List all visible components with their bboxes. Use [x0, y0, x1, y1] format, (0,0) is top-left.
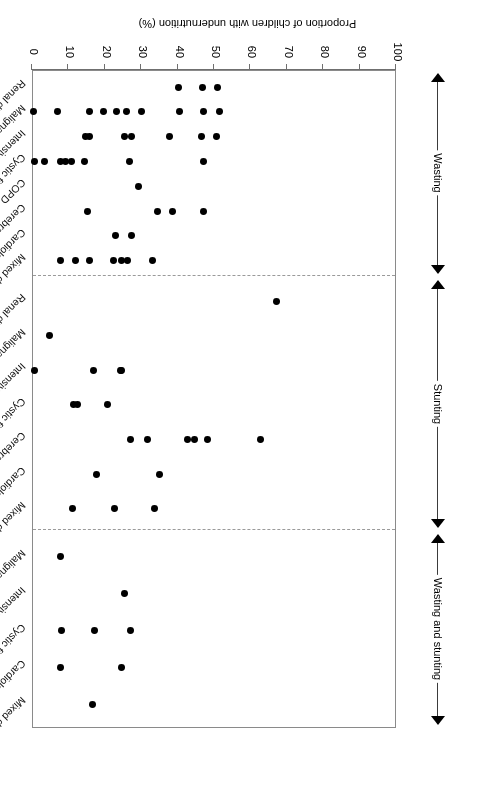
data-point	[175, 84, 182, 91]
data-point	[72, 257, 79, 264]
data-point	[54, 108, 61, 115]
group-separator-2	[33, 275, 395, 276]
data-point	[138, 108, 145, 115]
data-point	[200, 108, 207, 115]
group-label: Wasting	[432, 151, 444, 196]
data-point	[100, 108, 107, 115]
value-axis: 1009080706050403020100	[32, 69, 396, 70]
group-bracket: Wasting	[427, 74, 449, 273]
category-label: Cardiology	[0, 465, 28, 509]
data-point	[216, 108, 223, 115]
axis-tick-label: 90	[356, 32, 368, 72]
data-point	[127, 436, 134, 443]
data-point	[46, 332, 53, 339]
data-point	[69, 505, 76, 512]
data-point	[128, 133, 135, 140]
group-label: Wasting and stunting	[432, 575, 444, 683]
axis-tick-label: 30	[137, 32, 149, 72]
data-point	[119, 664, 126, 671]
axis-tick-label: 20	[101, 32, 113, 72]
data-point	[84, 208, 91, 215]
group-arrow-up-icon	[431, 519, 445, 528]
data-point	[213, 133, 220, 140]
axis-tick-label: 100	[392, 32, 404, 72]
axis-title: Proportion of children with undernutriti…	[0, 18, 495, 30]
group-arrow-up-icon	[431, 265, 445, 274]
group-arrow-down-icon	[431, 534, 445, 543]
group-separator-1	[33, 529, 395, 530]
data-point	[166, 133, 173, 140]
data-point	[127, 627, 134, 634]
data-point	[149, 257, 156, 264]
data-point	[117, 367, 124, 374]
data-point	[144, 436, 151, 443]
axis-tick-label: 0	[28, 32, 40, 72]
scatter-plot-area	[32, 70, 396, 728]
data-point	[41, 158, 48, 165]
chart-figure: 1009080706050403020100 Proportion of chi…	[0, 0, 495, 798]
data-point	[184, 436, 191, 443]
data-point	[31, 367, 38, 374]
data-point	[89, 701, 96, 708]
data-point	[113, 108, 120, 115]
data-point	[154, 208, 161, 215]
data-point	[57, 553, 64, 560]
data-point	[126, 158, 133, 165]
data-point	[124, 257, 131, 264]
axis-tick-label: 40	[174, 32, 186, 72]
data-point	[257, 436, 264, 443]
group-label: Stunting	[432, 381, 444, 427]
axis-tick-label: 80	[319, 32, 331, 72]
data-point	[135, 183, 142, 190]
data-point	[31, 158, 38, 165]
group-bracket: Stunting	[427, 281, 449, 527]
data-point	[111, 257, 118, 264]
data-point	[204, 436, 211, 443]
data-point	[57, 257, 64, 264]
data-point	[81, 158, 88, 165]
axis-tick-label: 70	[283, 32, 295, 72]
data-point	[169, 208, 176, 215]
data-point	[156, 471, 163, 478]
data-point	[68, 158, 75, 165]
data-point	[118, 257, 125, 264]
data-point	[191, 436, 198, 443]
data-point	[86, 257, 93, 264]
data-point	[214, 84, 221, 91]
data-point	[200, 208, 207, 215]
group-bracket: Wasting and stunting	[427, 535, 449, 724]
data-point	[200, 158, 207, 165]
data-point	[91, 627, 98, 634]
data-point	[199, 84, 206, 91]
data-point	[198, 133, 205, 140]
data-point	[111, 505, 118, 512]
category-label: Malignancy	[0, 548, 28, 594]
data-point	[112, 232, 119, 239]
group-arrow-up-icon	[431, 716, 445, 725]
category-label: Mixed diagnoses	[0, 695, 28, 759]
data-point	[104, 401, 111, 408]
data-point	[90, 367, 97, 374]
data-point	[176, 108, 183, 115]
axis-tick-label: 50	[210, 32, 222, 72]
data-point	[93, 471, 100, 478]
data-point	[128, 232, 135, 239]
data-point	[30, 108, 37, 115]
data-point	[123, 108, 130, 115]
group-arrow-down-icon	[431, 280, 445, 289]
category-label: Cardiology	[0, 658, 28, 702]
data-point	[57, 158, 64, 165]
data-point	[58, 627, 65, 634]
data-point	[86, 108, 93, 115]
data-point	[121, 590, 128, 597]
data-point	[121, 133, 128, 140]
axis-tick-label: 60	[246, 32, 258, 72]
data-point	[151, 505, 158, 512]
axis-tick-label: 10	[64, 32, 76, 72]
group-arrow-down-icon	[431, 73, 445, 82]
data-point	[273, 298, 280, 305]
data-point	[57, 664, 64, 671]
